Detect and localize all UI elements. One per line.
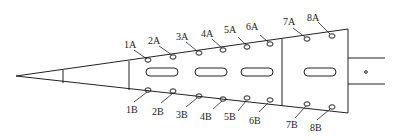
bottom-holes [145,88,335,109]
label-1A: 1A [124,39,137,50]
bottom-edge [16,76,348,113]
label-8B: 8B [310,122,322,133]
label-4B: 4B [200,111,212,122]
label-3B: 3B [176,109,188,120]
slot-2 [195,68,227,76]
label-3A: 3A [176,31,189,42]
label-5B: 5B [224,111,236,122]
label-1B: 1B [126,104,138,115]
slot-4 [304,68,336,76]
label-6A: 6A [246,21,259,32]
label-2B: 2B [152,106,164,117]
label-6B: 6B [249,115,261,126]
label-2A: 2A [148,35,161,46]
top-holes [145,34,335,62]
label-5A: 5A [224,24,237,35]
slot-1 [146,68,178,76]
label-7A: 7A [283,16,296,27]
slot-3 [241,68,273,76]
bottom-label-group: 1B 2B 3B 4B 5B 6B 7B 8B [126,104,322,133]
shaft-hole [365,71,368,74]
label-8A: 8A [307,12,320,23]
top-label-group: 1A 2A 3A 4A 5A 6A 7A 8A [124,12,320,50]
tapered-structure-diagram: 1A 2A 3A 4A 5A 6A 7A 8A 1B 2B 3B 4B 5B 6… [0,0,398,140]
label-7B: 7B [286,119,298,130]
label-4A: 4A [201,28,214,39]
